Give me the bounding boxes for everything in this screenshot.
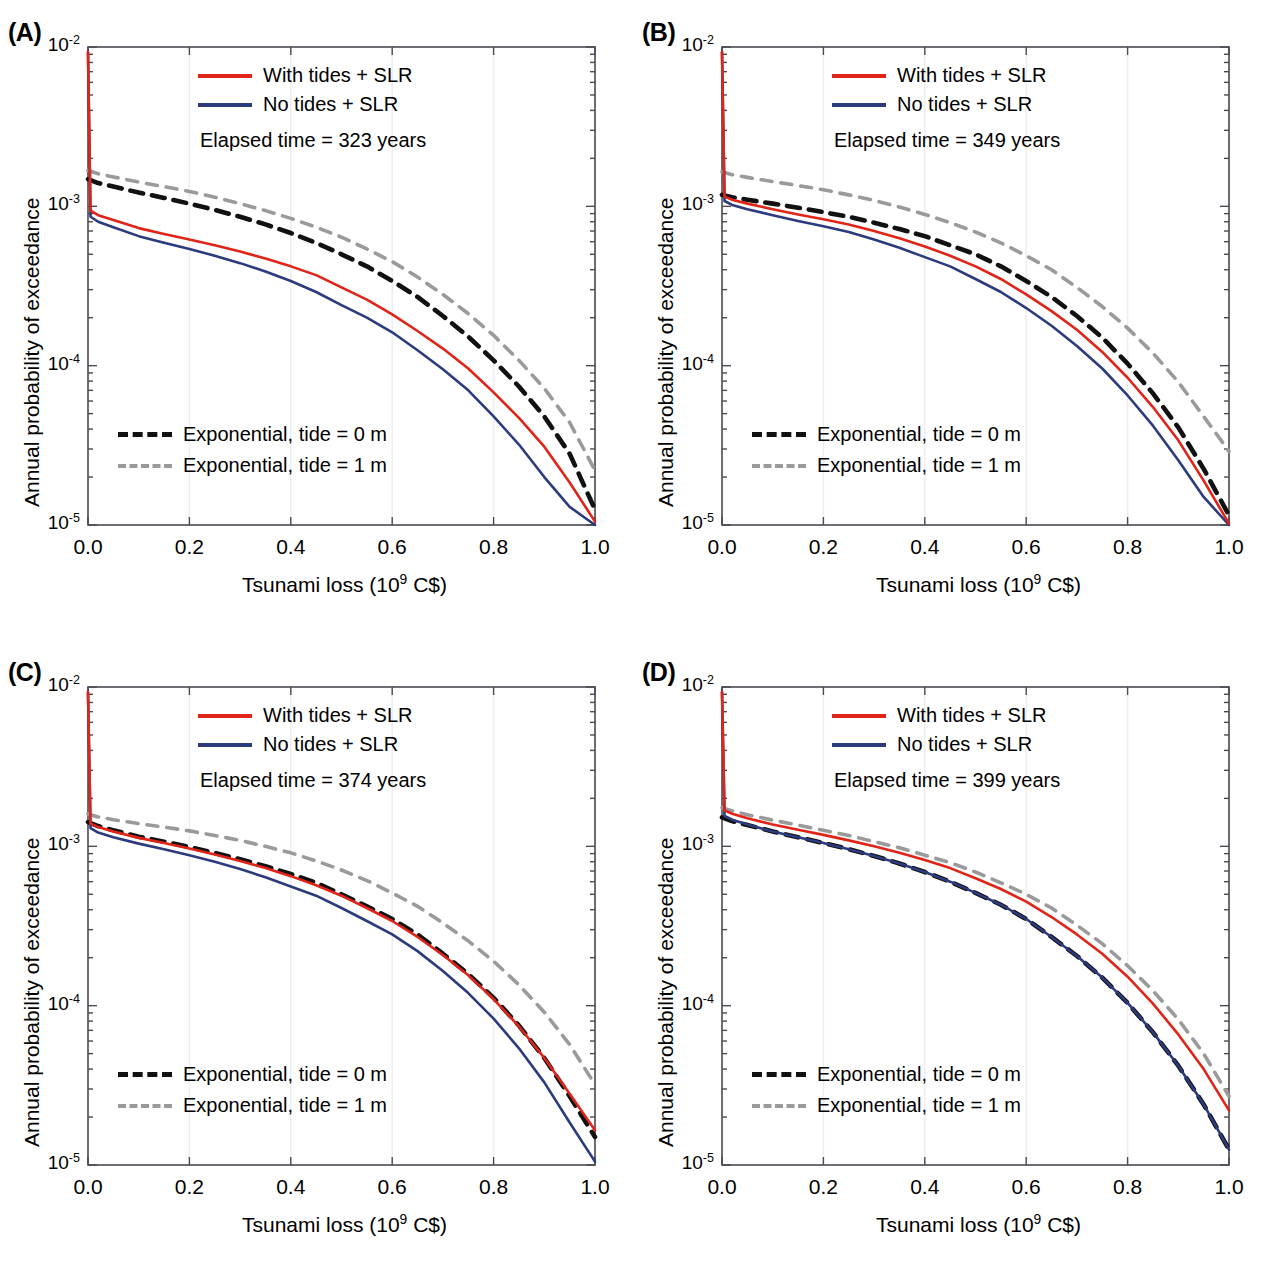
legend-swatch-blue-line <box>198 743 252 747</box>
x-tick-label-4: 0.8 <box>459 1175 529 1199</box>
legend-label-with-tides-slr: With tides + SLR <box>263 704 413 727</box>
legend-top-d: With tides + SLRNo tides + SLRElapsed ti… <box>832 701 1060 792</box>
legend-bottom-b: Exponential, tide = 0 mExponential, tide… <box>752 419 1021 481</box>
legend-label-with-tides-slr: With tides + SLR <box>897 64 1047 87</box>
x-tick-label-2: 0.4 <box>890 535 960 559</box>
legend-label-exponential-tide-0m: Exponential, tide = 0 m <box>817 423 1021 446</box>
legend-swatch-gray-dashed <box>752 1104 806 1108</box>
legend-label-exponential-tide-1m: Exponential, tide = 1 m <box>183 454 387 477</box>
legend-swatch-black-dashed <box>118 432 172 437</box>
legend-swatch-red-line <box>832 714 886 718</box>
legend-label-exponential-tide-0m: Exponential, tide = 0 m <box>183 423 387 446</box>
legend-label-exponential-tide-1m: Exponential, tide = 1 m <box>817 1094 1021 1117</box>
y-tick-label-0: 10-2 <box>18 34 80 56</box>
panel-a: (A)10-210-310-410-50.00.20.40.60.81.0Ann… <box>0 0 634 640</box>
x-tick-label-3: 0.6 <box>991 1175 1061 1199</box>
y-axis-title: Annual probability of exceedance <box>654 198 678 507</box>
legend-item-exponential-tide-1m[interactable]: Exponential, tide = 1 m <box>118 1090 387 1121</box>
legend-item-with-tides-slr[interactable]: With tides + SLR <box>832 701 1060 730</box>
legend-top-b: With tides + SLRNo tides + SLRElapsed ti… <box>832 61 1060 152</box>
x-tick-label-0: 0.0 <box>687 535 757 559</box>
legend-swatch-black-dashed <box>752 432 806 437</box>
legend-item-no-tides-slr[interactable]: No tides + SLR <box>198 730 426 759</box>
y-axis-title: Annual probability of exceedance <box>654 838 678 1147</box>
x-tick-label-5: 1.0 <box>1194 535 1264 559</box>
legend-label-no-tides-slr: No tides + SLR <box>263 733 398 756</box>
y-axis-title: Annual probability of exceedance <box>20 838 44 1147</box>
x-axis-title: Tsunami loss (109 C$) <box>864 573 1094 597</box>
legend-item-exponential-tide-1m[interactable]: Exponential, tide = 1 m <box>118 450 387 481</box>
x-tick-label-2: 0.4 <box>890 1175 960 1199</box>
legend-item-exponential-tide-1m[interactable]: Exponential, tide = 1 m <box>752 1090 1021 1121</box>
panel-d: (D)10-210-310-410-50.00.20.40.60.81.0Ann… <box>634 640 1268 1279</box>
y-tick-label-0: 10-2 <box>652 34 714 56</box>
legend-item-exponential-tide-0m[interactable]: Exponential, tide = 0 m <box>752 419 1021 450</box>
elapsed-time-label: Elapsed time = 374 years <box>198 769 426 792</box>
y-tick-label-3: 10-5 <box>652 512 714 534</box>
x-tick-label-5: 1.0 <box>560 535 630 559</box>
elapsed-time-label: Elapsed time = 349 years <box>832 129 1060 152</box>
legend-swatch-gray-dashed <box>752 464 806 468</box>
x-tick-label-1: 0.2 <box>788 535 858 559</box>
legend-item-with-tides-slr[interactable]: With tides + SLR <box>832 61 1060 90</box>
x-tick-label-3: 0.6 <box>357 535 427 559</box>
legend-top-c: With tides + SLRNo tides + SLRElapsed ti… <box>198 701 426 792</box>
legend-swatch-blue-line <box>832 103 886 107</box>
legend-swatch-gray-dashed <box>118 1104 172 1108</box>
legend-bottom-c: Exponential, tide = 0 mExponential, tide… <box>118 1059 387 1121</box>
y-tick-label-0: 10-2 <box>18 674 80 696</box>
legend-item-no-tides-slr[interactable]: No tides + SLR <box>198 90 426 119</box>
x-axis-title: Tsunami loss (109 C$) <box>864 1213 1094 1237</box>
elapsed-time-label: Elapsed time = 399 years <box>832 769 1060 792</box>
legend-label-no-tides-slr: No tides + SLR <box>263 93 398 116</box>
legend-swatch-red-line <box>198 74 252 78</box>
legend-item-exponential-tide-0m[interactable]: Exponential, tide = 0 m <box>752 1059 1021 1090</box>
legend-label-no-tides-slr: No tides + SLR <box>897 733 1032 756</box>
legend-item-with-tides-slr[interactable]: With tides + SLR <box>198 701 426 730</box>
x-tick-label-5: 1.0 <box>560 1175 630 1199</box>
legend-swatch-red-line <box>198 714 252 718</box>
y-tick-label-3: 10-5 <box>18 512 80 534</box>
legend-item-exponential-tide-1m[interactable]: Exponential, tide = 1 m <box>752 450 1021 481</box>
legend-swatch-blue-line <box>198 103 252 107</box>
x-tick-label-1: 0.2 <box>154 535 224 559</box>
legend-label-with-tides-slr: With tides + SLR <box>897 704 1047 727</box>
legend-item-exponential-tide-0m[interactable]: Exponential, tide = 0 m <box>118 1059 387 1090</box>
legend-swatch-black-dashed <box>752 1072 806 1077</box>
legend-item-with-tides-slr[interactable]: With tides + SLR <box>198 61 426 90</box>
x-tick-label-1: 0.2 <box>788 1175 858 1199</box>
x-tick-label-5: 1.0 <box>1194 1175 1264 1199</box>
x-tick-label-2: 0.4 <box>256 535 326 559</box>
legend-swatch-blue-line <box>832 743 886 747</box>
panel-c: (C)10-210-310-410-50.00.20.40.60.81.0Ann… <box>0 640 634 1279</box>
y-axis-title: Annual probability of exceedance <box>20 198 44 507</box>
legend-label-exponential-tide-0m: Exponential, tide = 0 m <box>817 1063 1021 1086</box>
y-tick-label-0: 10-2 <box>652 674 714 696</box>
legend-swatch-red-line <box>832 74 886 78</box>
x-tick-label-2: 0.4 <box>256 1175 326 1199</box>
x-tick-label-0: 0.0 <box>53 535 123 559</box>
legend-top-a: With tides + SLRNo tides + SLRElapsed ti… <box>198 61 426 152</box>
legend-label-with-tides-slr: With tides + SLR <box>263 64 413 87</box>
legend-item-exponential-tide-0m[interactable]: Exponential, tide = 0 m <box>118 419 387 450</box>
curve-exponential-tide-1-m <box>88 814 595 1085</box>
legend-bottom-a: Exponential, tide = 0 mExponential, tide… <box>118 419 387 481</box>
x-axis-title: Tsunami loss (109 C$) <box>230 1213 460 1237</box>
x-tick-label-4: 0.8 <box>459 535 529 559</box>
legend-label-exponential-tide-1m: Exponential, tide = 1 m <box>183 1094 387 1117</box>
y-tick-label-3: 10-5 <box>652 1152 714 1174</box>
elapsed-time-label: Elapsed time = 323 years <box>198 129 426 152</box>
x-tick-label-1: 0.2 <box>154 1175 224 1199</box>
legend-item-no-tides-slr[interactable]: No tides + SLR <box>832 730 1060 759</box>
x-tick-label-0: 0.0 <box>53 1175 123 1199</box>
y-tick-label-3: 10-5 <box>18 1152 80 1174</box>
panel-b: (B)10-210-310-410-50.00.20.40.60.81.0Ann… <box>634 0 1268 640</box>
curve-exponential-tide-1-m <box>722 808 1229 1097</box>
legend-label-exponential-tide-0m: Exponential, tide = 0 m <box>183 1063 387 1086</box>
legend-item-no-tides-slr[interactable]: No tides + SLR <box>832 90 1060 119</box>
legend-bottom-d: Exponential, tide = 0 mExponential, tide… <box>752 1059 1021 1121</box>
x-axis-title: Tsunami loss (109 C$) <box>230 573 460 597</box>
legend-swatch-black-dashed <box>118 1072 172 1077</box>
legend-swatch-gray-dashed <box>118 464 172 468</box>
legend-label-no-tides-slr: No tides + SLR <box>897 93 1032 116</box>
